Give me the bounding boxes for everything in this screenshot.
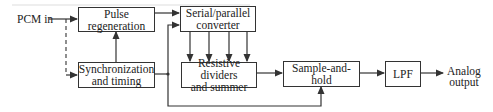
input-label: PCM in <box>17 14 53 25</box>
pulse-regeneration-line1: Pulse <box>104 8 129 20</box>
serial-parallel-line2: converter <box>196 19 239 31</box>
serial-parallel-block: Serial/parallel converter <box>180 6 256 32</box>
resistive-dividers-block: Resistive dividers and summer <box>181 62 257 88</box>
serial-parallel-line1: Serial/parallel <box>186 7 251 19</box>
resistive-dividers-line1: Resistive dividers <box>182 57 256 81</box>
output-label-line2: output <box>447 77 481 88</box>
lpf-label: LPF <box>393 68 413 80</box>
sync-timing-line1: Synchronization <box>79 63 154 75</box>
sync-timing-block: Synchronization and timing <box>78 62 155 88</box>
timing-to-serial-arrow <box>168 25 179 74</box>
sample-hold-block: Sample-and-hold <box>283 61 360 87</box>
output-label: Analog output <box>447 66 481 88</box>
pulse-regeneration-block: Pulse regeneration <box>78 7 155 32</box>
sync-timing-line2: and timing <box>92 75 142 87</box>
pulse-regeneration-line2: regeneration <box>88 20 145 32</box>
resistive-dividers-line2: and summer <box>191 81 248 93</box>
lpf-block: LPF <box>385 61 421 87</box>
sample-hold-label: Sample-and-hold <box>284 62 359 86</box>
